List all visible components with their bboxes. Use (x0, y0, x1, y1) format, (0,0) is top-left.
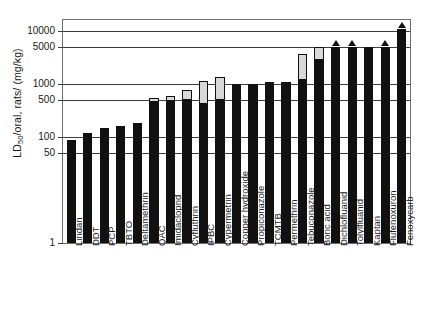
greater-than-arrow-icon (398, 22, 406, 28)
x-axis-label: PCP (107, 226, 117, 246)
x-axis-label: Imidacloprid (173, 195, 183, 246)
ld50-bar-chart: LD50/oral, rats/ (mg/kg) 100005000100050… (0, 0, 425, 328)
y-tick-label: 500 (38, 95, 55, 105)
x-axis-label: IPBC (206, 224, 216, 246)
y-axis-title-suffix: /oral, rats/ (mg/kg) (11, 48, 23, 135)
x-axis-label: TBTO (124, 221, 134, 246)
x-axis-label: Permethrin (289, 200, 299, 246)
bar-group[interactable] (199, 20, 208, 243)
greater-than-arrow-icon (332, 40, 340, 46)
bar-value (199, 104, 208, 243)
bar-group[interactable] (364, 20, 373, 243)
x-axis-label: QAC (157, 225, 167, 246)
y-tick-label: 1000 (33, 79, 55, 89)
x-axis-label: Copper hydroxide (240, 171, 250, 246)
bar-range-upper (298, 54, 307, 79)
bar-value (364, 47, 373, 243)
x-axis-label: Fenoxycarb (405, 196, 415, 246)
greater-than-arrow-icon (381, 40, 389, 46)
y-tick-label: 100 (38, 132, 55, 142)
greater-than-arrow-icon (348, 40, 356, 46)
bar-group[interactable] (265, 20, 274, 243)
y-tick-label: 50 (44, 148, 55, 158)
x-axis-label: Tolylfluanid (355, 199, 365, 246)
y-tick-label: 5000 (33, 42, 55, 52)
y-axis-title: LD50/oral, rats/ (mg/kg) (11, 13, 25, 193)
y-axis-title-subscript: 50 (16, 136, 25, 145)
x-axis-label: Dichlofluanid (339, 192, 349, 246)
bar-group[interactable] (67, 20, 76, 243)
x-axis-labels: LindanDDTPCPTBTODeltamethrinQACImidaclop… (62, 246, 411, 328)
x-axis-label: Propiconazole (256, 186, 266, 246)
bar-range-upper (182, 90, 191, 99)
bar-range-upper (199, 81, 208, 104)
x-axis-label: TCMTB (273, 213, 283, 246)
y-axis-title-prefix: LD (11, 144, 23, 158)
y-tick-mark (58, 243, 63, 244)
bar-group[interactable] (149, 20, 158, 243)
bar-range-upper (215, 77, 224, 100)
bar-group[interactable] (116, 20, 125, 243)
y-tick-label: 1 (49, 238, 55, 248)
x-axis-label: Flufenoxuron (388, 191, 398, 246)
x-axis-label: Lindan (74, 217, 84, 246)
x-axis-label: Tebuconazole (306, 187, 316, 246)
bar-group[interactable] (100, 20, 109, 243)
x-axis-label: Cypermetrin (223, 194, 233, 246)
x-axis-label: Cyfluthrin (190, 206, 200, 246)
x-axis-label: Deltamethrin (140, 192, 150, 246)
x-axis-label: Boric acid (322, 204, 332, 246)
bar-range-upper (314, 47, 323, 60)
x-axis-label: DDT (91, 226, 101, 246)
bar-value (149, 102, 158, 243)
bar-group[interactable] (83, 20, 92, 243)
y-tick-label: 10000 (27, 26, 55, 36)
x-axis-label: Kaptan (372, 216, 382, 246)
